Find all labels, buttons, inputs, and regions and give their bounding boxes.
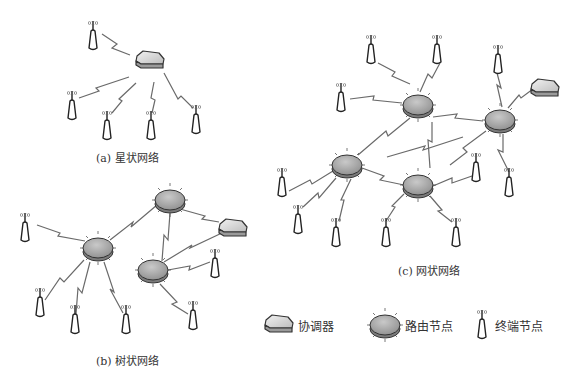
wireless-link	[45, 260, 84, 300]
end-device-icon	[336, 83, 346, 112]
legend-end-device-icon	[477, 310, 487, 339]
wireless-link	[112, 83, 136, 113]
end-device-icon	[35, 288, 45, 317]
wireless-link	[428, 122, 432, 168]
wireless-link	[303, 178, 336, 207]
wireless-link	[168, 262, 210, 270]
wireless-link	[104, 262, 123, 313]
wireless-link	[430, 196, 452, 222]
end-device-icon	[67, 91, 77, 120]
end-device-icon	[88, 21, 98, 50]
wireless-link	[162, 213, 170, 261]
wireless-link	[76, 262, 90, 314]
end-device-icon	[210, 249, 220, 278]
wireless-link	[79, 77, 129, 98]
router-node-icon	[80, 231, 116, 265]
wireless-link	[498, 134, 509, 172]
wireless-link	[378, 63, 410, 84]
end-device-icon	[451, 218, 461, 247]
end-device-icon	[331, 218, 341, 247]
end-device-icon	[188, 301, 198, 330]
end-device-icon	[471, 153, 481, 182]
wireless-link	[289, 171, 333, 191]
coordinator-icon	[136, 51, 164, 68]
wireless-link	[386, 194, 404, 221]
router-node-icon	[135, 253, 171, 287]
end-device-icon	[504, 168, 514, 197]
wireless-link	[450, 131, 486, 165]
wireless-link	[420, 63, 440, 92]
end-device-icon	[20, 213, 30, 242]
legend-label-router: 路由节点	[405, 317, 453, 334]
end-device-icon	[432, 35, 442, 64]
wireless-link	[37, 225, 85, 241]
router-node-icon	[482, 103, 518, 137]
mesh-network	[289, 63, 533, 222]
caption-tree-network: (b) 树状网络	[96, 352, 159, 368]
wireless-link	[433, 176, 472, 186]
end-device-icon	[277, 168, 287, 197]
wireless-link	[102, 34, 130, 55]
end-device-icon	[493, 45, 503, 74]
end-device-icon	[102, 111, 112, 140]
end-device-icon	[191, 105, 201, 134]
wireless-link	[164, 73, 193, 108]
caption-mesh-network: (c) 网状网络	[398, 262, 460, 278]
coordinator-icon	[219, 219, 247, 236]
legend-label-end-device: 终端节点	[495, 317, 543, 334]
end-device-icon	[70, 305, 80, 334]
wireless-link	[387, 137, 463, 157]
wireless-link	[358, 118, 410, 155]
end-device-icon	[381, 218, 391, 247]
coordinator-icon	[531, 79, 559, 96]
end-device-icon	[293, 205, 303, 234]
wireless-link	[350, 96, 402, 103]
router-node-icon	[400, 88, 436, 122]
wireless-link	[433, 114, 483, 121]
end-device-icon	[366, 35, 376, 64]
legend-coordinator-icon	[265, 315, 293, 332]
wireless-link	[180, 209, 219, 222]
wireless-link	[160, 284, 188, 314]
caption-star-network: (a) 星状网络	[96, 149, 159, 165]
legend-router-icon	[367, 308, 403, 342]
wireless-link	[497, 73, 502, 107]
end-device-icon	[121, 305, 131, 334]
wireless-link	[508, 89, 533, 108]
tree-network	[37, 205, 224, 314]
wireless-link	[110, 205, 157, 240]
wireless-link	[151, 82, 155, 113]
legend-label-coordinator: 协调器	[298, 317, 334, 334]
end-device-icon	[146, 111, 156, 140]
wireless-link	[362, 168, 404, 185]
router-node-icon	[152, 183, 188, 217]
wireless-link	[339, 179, 351, 221]
network-topology-diagram	[0, 0, 569, 381]
